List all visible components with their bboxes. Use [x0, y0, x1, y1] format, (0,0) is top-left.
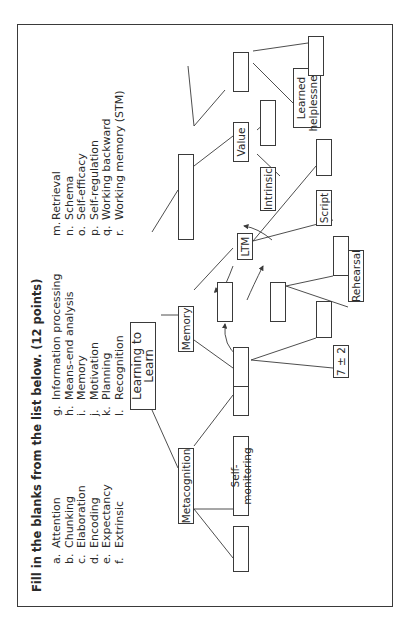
value-node: Value [233, 122, 249, 162]
ltm-node: LTM [237, 233, 253, 260]
script-node: Script [316, 190, 332, 226]
blank-answer-motivation-branch[interactable] [178, 154, 194, 240]
intrinsic-node: Intrinsic [260, 167, 276, 211]
blank-answer-ltm-right[interactable] [316, 139, 332, 176]
blank-answer-metacog-left[interactable] [233, 526, 249, 572]
blank-answer-expectancy-branch[interactable] [233, 52, 249, 92]
worksheet: Fill in the blanks from the list below. … [17, 24, 393, 607]
blank-answer-stm-right[interactable] [316, 301, 332, 338]
blank-answer-rehearsal-right[interactable] [333, 236, 349, 276]
metacognition-node: Metacognition [178, 448, 194, 524]
learned-helplessness-node: Learned helplessness [293, 68, 321, 128]
learning-to-learn-node: Learning to Learn [130, 322, 156, 410]
blank-answer-value-right[interactable] [260, 100, 276, 146]
blank-answer-memory-cycle-right[interactable] [270, 282, 286, 322]
rehearsal-node: Rehearsal [348, 250, 364, 302]
self-monitoring-node: Self-monitoring [233, 436, 249, 516]
blank-answer-memory-cycle-left[interactable] [217, 282, 233, 322]
seven-plus-minus-two-node: 7 ± 2 [333, 345, 349, 378]
memory-node: Memory [178, 306, 194, 352]
diagram-connectors [18, 23, 394, 606]
blank-answer-memory-bottom[interactable] [233, 347, 249, 387]
blank-answer-far-right[interactable] [308, 36, 324, 76]
